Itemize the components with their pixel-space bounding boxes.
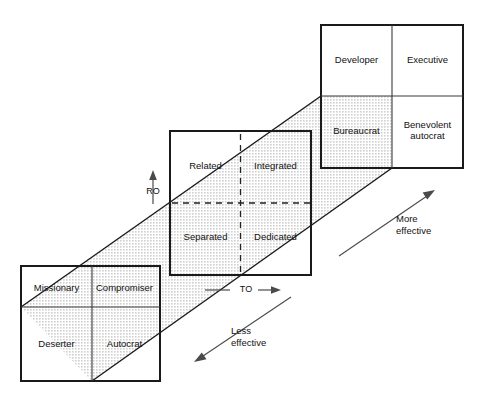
band-box-overlaps <box>21 96 392 381</box>
more-effective-label: More effective <box>396 213 460 237</box>
ro-axis-label: RO <box>139 186 167 196</box>
to-axis-label: TO <box>234 284 258 294</box>
diagram-canvas: Missionary Compromiser Deserter Autocrat… <box>0 0 481 401</box>
less-effective-label: Less effective <box>231 325 295 349</box>
